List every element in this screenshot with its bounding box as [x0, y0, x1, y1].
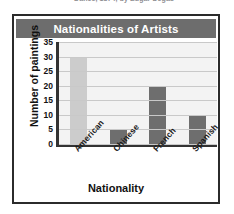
y-axis-tick-label: 10: [37, 111, 53, 119]
gridline: [59, 57, 217, 58]
gridline: [59, 71, 217, 72]
figure-source-caption-text: Dance, 1874, by Edgar Degas: [74, 0, 174, 2]
gridline: [59, 86, 217, 87]
x-axis-title: Nationality: [14, 182, 218, 194]
x-axis-tick-labels: AmericanChineseFrenchSpanish: [59, 147, 217, 187]
y-axis-tick-labels: 35302520151050: [37, 42, 53, 144]
gridline: [59, 42, 217, 43]
chart-figure: Nationalities of Artists Number of paint…: [12, 14, 220, 204]
y-axis-tick-label: 5: [37, 125, 53, 133]
chart-title: Nationalities of Artists: [53, 23, 178, 35]
y-axis-tick-label: 0: [37, 140, 53, 148]
gridline: [59, 100, 217, 101]
y-axis-tick-label: 25: [37, 67, 53, 75]
y-axis-tick-label: 15: [37, 96, 53, 104]
y-axis-tick-label: 20: [37, 82, 53, 90]
figure-source-caption: Dance, 1874, by Edgar Degas: [0, 0, 234, 7]
chart-title-banner: Nationalities of Artists: [16, 19, 216, 38]
y-axis-tick-label: 30: [37, 53, 53, 61]
gridline: [59, 115, 217, 116]
y-axis-tick-label: 35: [37, 38, 53, 46]
